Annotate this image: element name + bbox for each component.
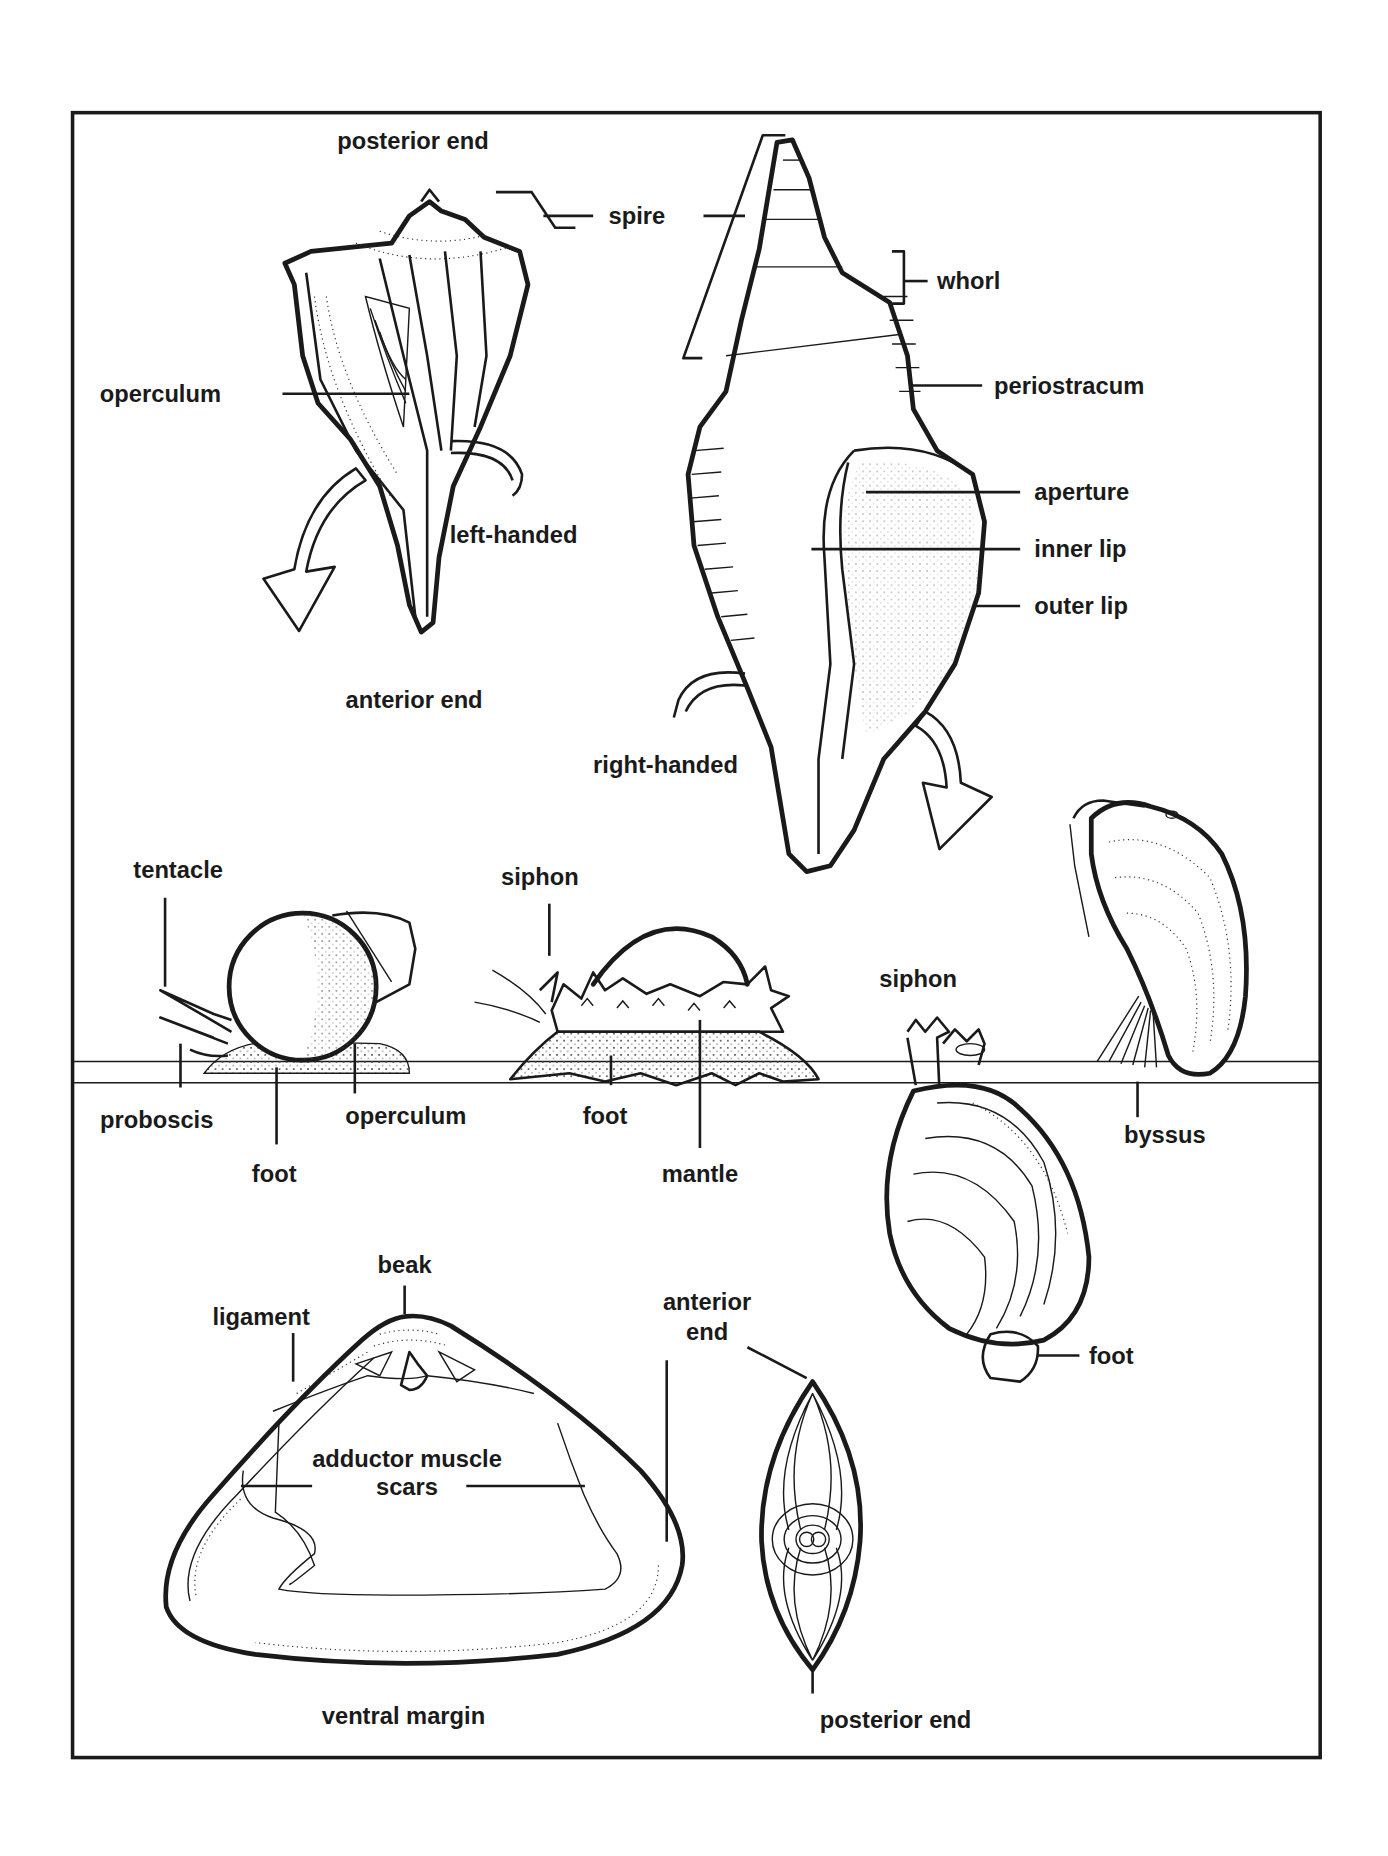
- mussel-drawing: [1070, 801, 1247, 1075]
- label-spire: spire: [609, 203, 666, 229]
- label-periostracum: periostracum: [994, 373, 1144, 399]
- label-siphon-limpet: siphon: [501, 864, 579, 890]
- label-anterior: anterior: [663, 1289, 751, 1315]
- label-ventral-margin: ventral margin: [322, 1703, 485, 1729]
- label-byssus: byssus: [1124, 1122, 1206, 1148]
- label-inner-lip: inner lip: [1034, 536, 1126, 562]
- label-operculum-snail: operculum: [345, 1103, 466, 1129]
- label-siphon-clam: siphon: [879, 966, 957, 992]
- label-outer-lip: outer lip: [1034, 593, 1128, 619]
- label-anterior-end: end: [686, 1319, 728, 1345]
- label-ligament: ligament: [212, 1304, 310, 1330]
- moon-snail-drawing: [160, 911, 415, 1073]
- label-foot-snail: foot: [252, 1161, 297, 1187]
- left-handed-whelk-drawing: [264, 190, 528, 632]
- label-operculum-whelk: operculum: [100, 381, 221, 407]
- label-tentacle: tentacle: [133, 857, 223, 883]
- label-right-handed: right-handed: [593, 752, 738, 778]
- label-posterior-end-bivalve: posterior end: [820, 1707, 971, 1733]
- label-foot-clam: foot: [1089, 1343, 1134, 1369]
- label-proboscis: proboscis: [100, 1107, 213, 1133]
- label-left-handed: left-handed: [450, 522, 578, 548]
- label-aperture: aperture: [1034, 479, 1129, 505]
- label-posterior-end-whelk: posterior end: [337, 128, 488, 154]
- label-whorl: whorl: [936, 268, 1000, 294]
- label-scars: scars: [376, 1474, 438, 1500]
- label-foot-limpet: foot: [583, 1103, 628, 1129]
- mollusc-anatomy-diagram: posterior end spire operculum left-hande…: [0, 0, 1388, 1856]
- label-mantle: mantle: [662, 1161, 738, 1187]
- label-beak: beak: [378, 1252, 433, 1278]
- slipper-snail-drawing: [475, 929, 819, 1085]
- label-adductor-muscle: adductor muscle: [312, 1446, 502, 1472]
- bivalve-end-view-drawing: [761, 1382, 860, 1670]
- buried-clam-drawing: [887, 1018, 1089, 1382]
- label-anterior-end-whelk: anterior end: [346, 687, 483, 713]
